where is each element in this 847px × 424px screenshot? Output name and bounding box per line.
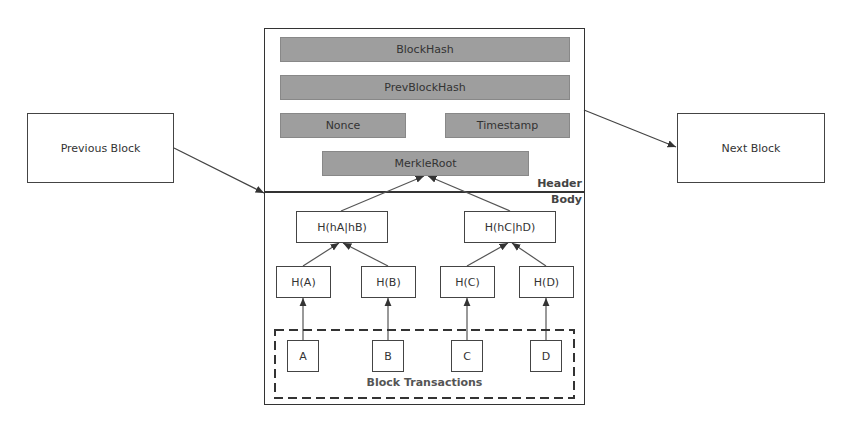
previous-block-label: Previous Block bbox=[61, 142, 141, 155]
transaction-a-label: A bbox=[299, 350, 307, 363]
transaction-b-label: B bbox=[384, 350, 392, 363]
next-block-label: Next Block bbox=[722, 142, 781, 155]
header-section-label: Header bbox=[530, 177, 582, 190]
hash-node-b: H(B) bbox=[361, 266, 416, 298]
merkle-root-field: MerkleRoot bbox=[322, 151, 529, 176]
hash-node-a-label: H(A) bbox=[291, 276, 315, 289]
block-transactions-label: Block Transactions bbox=[275, 376, 574, 389]
hash-node-a: H(A) bbox=[276, 266, 331, 298]
previous-block: Previous Block bbox=[27, 113, 174, 183]
block-hash-field: BlockHash bbox=[280, 37, 570, 62]
transaction-a: A bbox=[287, 340, 319, 372]
timestamp-field: Timestamp bbox=[445, 113, 570, 138]
hash-node-b-label: H(B) bbox=[376, 276, 400, 289]
transaction-c-label: C bbox=[463, 350, 471, 363]
transaction-c: C bbox=[451, 340, 483, 372]
merkle-root-label: MerkleRoot bbox=[395, 157, 457, 170]
hash-node-d: H(D) bbox=[519, 266, 574, 298]
hash-node-c-label: H(C) bbox=[455, 276, 480, 289]
transaction-b: B bbox=[372, 340, 404, 372]
body-section-label: Body bbox=[530, 193, 582, 206]
nonce-label: Nonce bbox=[326, 119, 361, 132]
hash-node-d-label: H(D) bbox=[534, 276, 559, 289]
prev-block-hash-label: PrevBlockHash bbox=[384, 81, 465, 94]
nonce-field: Nonce bbox=[280, 113, 406, 138]
hash-node-c: H(C) bbox=[440, 266, 495, 298]
block-hash-label: BlockHash bbox=[396, 43, 453, 56]
next-block: Next Block bbox=[677, 113, 825, 183]
hash-node-ab: H(hA|hB) bbox=[296, 211, 388, 243]
hash-node-cd: H(hC|hD) bbox=[464, 211, 556, 243]
transaction-d-label: D bbox=[542, 350, 550, 363]
transaction-d: D bbox=[530, 340, 562, 372]
prev-block-hash-field: PrevBlockHash bbox=[280, 75, 570, 100]
hash-node-cd-label: H(hC|hD) bbox=[485, 221, 536, 234]
timestamp-label: Timestamp bbox=[477, 119, 538, 132]
hash-node-ab-label: H(hA|hB) bbox=[317, 221, 367, 234]
